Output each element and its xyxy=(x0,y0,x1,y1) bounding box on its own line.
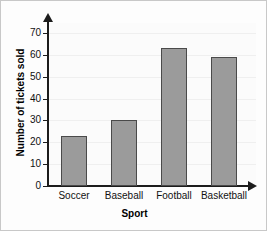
y-tick-label-60: 60 xyxy=(19,50,41,60)
gridline-70 xyxy=(49,33,256,34)
x-tick-label-basketball: Basketball xyxy=(194,190,254,202)
y-axis-line xyxy=(47,20,49,187)
x-axis-title: Sport xyxy=(1,208,267,219)
y-tick-label-10: 10 xyxy=(19,159,41,169)
y-tick-40 xyxy=(43,99,48,100)
y-tick-60 xyxy=(43,55,48,56)
y-tick-0 xyxy=(43,186,48,187)
bar-chart-figure: Number of tickets sold 010203040506070 S… xyxy=(0,0,267,231)
bar-soccer xyxy=(61,136,87,186)
bar-basketball xyxy=(211,57,237,186)
y-tick-label-50: 50 xyxy=(19,72,41,82)
gridline-60 xyxy=(49,55,256,56)
bar-baseball xyxy=(111,120,137,186)
y-tick-10 xyxy=(43,164,48,165)
y-tick-70 xyxy=(43,33,48,34)
y-tick-label-0: 0 xyxy=(19,181,41,191)
bar-football xyxy=(161,48,187,186)
y-tick-label-30: 30 xyxy=(19,115,41,125)
y-tick-label-70: 70 xyxy=(19,28,41,38)
y-tick-label-20: 20 xyxy=(19,137,41,147)
y-tick-label-40: 40 xyxy=(19,94,41,104)
y-tick-30 xyxy=(43,120,48,121)
y-axis-arrow-icon xyxy=(43,13,53,22)
y-tick-50 xyxy=(43,77,48,78)
y-tick-20 xyxy=(43,142,48,143)
